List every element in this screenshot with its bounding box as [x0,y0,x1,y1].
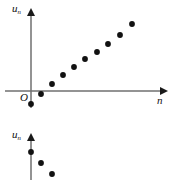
lower-y-axis-label: un [12,129,21,142]
lower-plot-data-point-2 [49,171,55,177]
lower-plot: un [0,0,177,180]
figure-canvas: un n O un [0,0,177,180]
lower-plot-data-point-1 [38,160,44,166]
lower-plot-graphics [0,0,177,180]
lower-y-axis-label-subscript: n [18,134,21,141]
lower-plot-y-axis-arrow [27,133,35,141]
lower-plot-data-point-0 [28,149,34,155]
